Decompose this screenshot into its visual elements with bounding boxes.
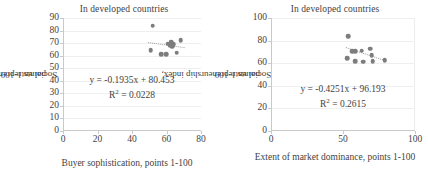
y-axis-tick-label: 40 <box>50 76 60 86</box>
y-axis-tick-label: 0 <box>262 126 267 136</box>
data-point <box>382 58 387 63</box>
scatter-chart-buyer-sophistication: In developed countries Social entreprene… <box>0 0 214 185</box>
x-axis-line <box>63 130 201 131</box>
y-axis-title: Social entrepreneurship index, points 1-… <box>214 0 240 150</box>
y-axis-tick-label: 90 <box>50 13 60 23</box>
data-point <box>150 23 155 28</box>
x-axis-tick-label: 60 <box>162 135 172 145</box>
data-point <box>353 49 358 54</box>
data-point <box>353 59 358 64</box>
data-point <box>164 52 169 57</box>
gridline <box>63 18 201 19</box>
chart-title: In developed countries <box>0 4 214 14</box>
x-axis-line <box>271 130 415 131</box>
gridline <box>63 43 201 44</box>
y-axis-tick-label: 80 <box>50 26 60 36</box>
scatter-chart-market-dominance: In developed countries Social entreprene… <box>214 0 428 185</box>
gridline <box>271 63 415 64</box>
gridline <box>271 41 415 42</box>
gridline <box>63 118 201 119</box>
x-axis-title: Buyer sophistication, points 1-100 <box>40 158 214 170</box>
y-axis-tick-label: 20 <box>50 101 60 111</box>
x-axis-tick-label: 0 <box>61 135 66 145</box>
x-axis-title: Extent of market dominance, points 1-100 <box>242 152 428 164</box>
data-point <box>174 50 179 55</box>
y-axis-tick-label: 0 <box>54 126 59 136</box>
y-axis-tick-label: 30 <box>50 89 60 99</box>
x-axis-tick-label: 20 <box>93 135 103 145</box>
data-point <box>370 53 375 58</box>
gridline <box>63 31 201 32</box>
data-point <box>148 48 153 53</box>
y-axis-title: Social entrepreneurship index, points 1-… <box>0 0 26 150</box>
y-axis-tick-label: 100 <box>253 13 267 23</box>
y-axis-tick-label: 60 <box>50 51 60 61</box>
x-axis-tick-label: 0 <box>269 135 274 145</box>
r-squared-text: R2 = 0.0228 <box>63 86 201 101</box>
plot-area: 020406080100050100 <box>271 18 415 131</box>
y-axis-tick-label: 70 <box>50 38 60 48</box>
x-axis-tick-label: 50 <box>338 135 348 145</box>
data-point <box>370 59 375 64</box>
gridline <box>271 18 415 19</box>
data-point <box>361 59 366 64</box>
trendline-equation: y = -0.4251x + 96.193 R2 = 0.2615 <box>271 83 415 110</box>
y-axis-tick-label: 50 <box>50 63 60 73</box>
y-axis-line <box>271 18 272 131</box>
gridline <box>63 106 201 107</box>
data-point <box>359 48 364 53</box>
r-squared-text: R2 = 0.2615 <box>271 95 415 110</box>
y-axis-tick-label: 40 <box>258 81 268 91</box>
data-point <box>345 56 350 61</box>
data-point <box>171 42 176 47</box>
x-axis-tick-label: 100 <box>408 135 422 145</box>
equation-text: y = -0.4251x + 96.193 <box>271 83 415 95</box>
x-axis-tick-label: 80 <box>196 135 206 145</box>
data-point <box>178 38 183 43</box>
y-axis-tick-label: 60 <box>258 58 268 68</box>
data-point <box>346 34 351 39</box>
y-axis-tick-label: 80 <box>258 36 268 46</box>
charts-container: In developed countries Social entreprene… <box>0 0 428 185</box>
plot-frame <box>271 18 415 131</box>
gridline <box>63 56 201 57</box>
data-point <box>368 46 373 51</box>
y-axis-tick-label: 20 <box>258 104 268 114</box>
chart-title: In developed countries <box>214 4 428 14</box>
y-axis-tick-label: 10 <box>50 114 60 124</box>
x-axis-tick-label: 40 <box>127 135 137 145</box>
